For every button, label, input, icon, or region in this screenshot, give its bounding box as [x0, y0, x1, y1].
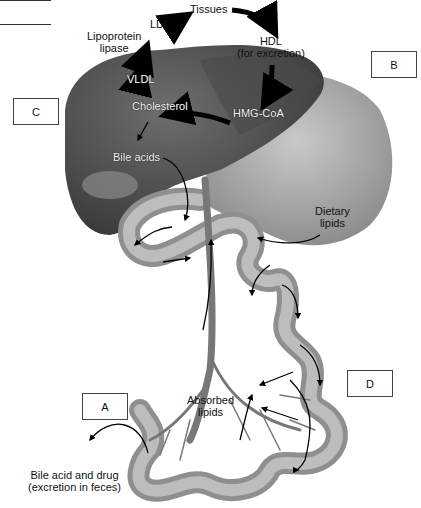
absorbed-lipids-label: Absorbed lipids [187, 394, 234, 418]
hdl-label: HDL (for excretion) [237, 35, 305, 59]
lipoprotein-lipase-line1: Lipoprotein [87, 30, 141, 42]
dietary-lipids-line1: Dietary [315, 205, 350, 217]
hdl-line2: (for excretion) [237, 47, 305, 59]
absorbed-lipids-line2: lipids [187, 406, 234, 418]
anatomy-illustration [0, 0, 421, 508]
dietary-lipids-label: Dietary lipids [315, 205, 350, 229]
tissues-label: Tissues [190, 3, 228, 15]
bile-acids-label: Bile acids [113, 151, 160, 163]
vldl-label: VLDL [127, 73, 155, 85]
excretion-label: Bile acid and drug (excretion in feces) [28, 469, 121, 493]
hdl-line1: HDL [237, 35, 305, 47]
absorbed-lipids-line1: Absorbed [187, 394, 234, 406]
answer-box-a[interactable]: A [82, 393, 128, 420]
lipoprotein-lipase-line2: lipase [87, 42, 141, 54]
cholesterol-label: Cholesterol [132, 100, 188, 112]
hmg-coa-label: HMG-CoA [233, 107, 284, 119]
lipoprotein-lipase-label: Lipoprotein lipase [87, 30, 141, 54]
dietary-lipids-line2: lipids [315, 217, 350, 229]
excretion-line2: (excretion in feces) [28, 481, 121, 493]
excretion-line1: Bile acid and drug [28, 469, 121, 481]
ldl-label: LDL [150, 18, 170, 30]
answer-box-d[interactable]: D [347, 370, 393, 397]
answer-box-b[interactable]: B [371, 51, 417, 78]
answer-box-c[interactable]: C [13, 98, 59, 125]
